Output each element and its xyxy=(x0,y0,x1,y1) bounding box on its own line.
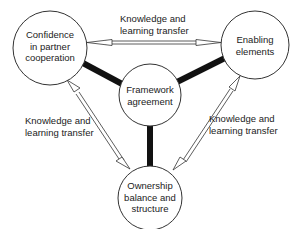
edge-label-top: Knowledge and learning transfer xyxy=(120,13,189,36)
edge-label-right-line-2: learning transfer xyxy=(209,125,278,137)
edge-label-left-line-1: Knowledge and xyxy=(25,115,94,127)
connector-framework-confidence xyxy=(81,62,124,85)
edge-label-left-line-2: learning transfer xyxy=(25,127,94,139)
edge-label-right-line-1: Knowledge and xyxy=(209,113,278,125)
node-enabling-line-1: Enabling xyxy=(220,34,290,46)
edge-label-left: Knowledge and learning transfer xyxy=(25,115,94,138)
arrow-confidence-enabling xyxy=(87,40,221,46)
connector-framework-enabling xyxy=(177,58,225,82)
node-framework-line-2: agreement xyxy=(115,96,185,108)
edge-label-top-line-1: Knowledge and xyxy=(120,13,189,25)
edge-label-right: Knowledge and learning transfer xyxy=(209,113,278,136)
node-confidence-line-1: Confidence xyxy=(10,29,90,41)
node-confidence-line-3: cooperation xyxy=(10,52,90,64)
node-ownership: Ownership balance and structure xyxy=(112,180,188,215)
node-ownership-line-2: balance and xyxy=(112,192,188,204)
node-confidence: Confidence in partner cooperation xyxy=(10,29,90,64)
node-ownership-line-3: structure xyxy=(112,203,188,215)
node-framework-line-1: Framework xyxy=(115,84,185,96)
node-ownership-line-1: Ownership xyxy=(112,180,188,192)
node-confidence-line-2: in partner xyxy=(10,41,90,53)
node-enabling-line-2: elements xyxy=(220,46,290,58)
node-framework: Framework agreement xyxy=(115,84,185,107)
edge-label-top-line-2: learning transfer xyxy=(120,25,189,37)
node-enabling: Enabling elements xyxy=(220,34,290,57)
